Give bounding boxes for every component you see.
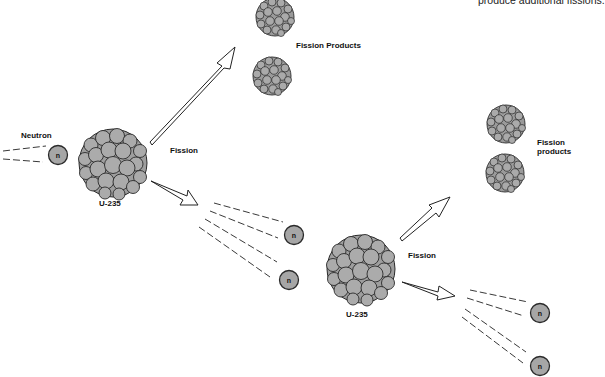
neutron-symbol: n xyxy=(292,232,296,239)
incoming-neutron-trail xyxy=(3,146,46,162)
neutron-symbol: n xyxy=(287,277,291,284)
emitted-neutron-trails-a xyxy=(199,203,283,277)
emitted-neutron-b2: n xyxy=(531,357,550,376)
fission-product-a1 xyxy=(256,0,295,37)
fission-label-b: Fission xyxy=(408,251,436,260)
neutron-symbol: n xyxy=(538,310,542,317)
arrow-to-fission-products-a xyxy=(150,47,235,145)
u235-nucleus-a xyxy=(79,129,148,201)
fission-products-label-a: Fission Products xyxy=(296,41,361,50)
neutron-label: Neutron xyxy=(21,131,52,140)
arrow-to-neutrons-b xyxy=(402,282,455,300)
fission-product-b1 xyxy=(487,105,526,144)
caption-text: produce additional fissions. xyxy=(478,0,605,6)
incoming-neutron: n xyxy=(49,146,68,165)
fission-product-a2 xyxy=(253,57,292,96)
emitted-neutron-b1: n xyxy=(531,304,550,323)
fission-product-b2 xyxy=(486,154,525,193)
neutron-symbol: n xyxy=(56,152,60,159)
fission-products-label-b-line1: Fission xyxy=(537,138,571,147)
arrow-to-neutrons-a xyxy=(151,181,198,205)
emitted-neutron-a1: n xyxy=(285,226,304,245)
fission-label-a: Fission xyxy=(170,146,198,155)
neutron-symbol: n xyxy=(538,363,542,370)
fission-products-label-b: Fission products xyxy=(537,138,571,156)
u235-nucleus-b xyxy=(327,235,396,307)
fission-products-label-b-line2: products xyxy=(537,147,571,156)
emitted-neutron-a2: n xyxy=(280,271,299,290)
arrow-to-fission-products-b xyxy=(400,197,450,241)
emitted-neutron-trails-b xyxy=(462,290,528,363)
u235-label-b: U-235 xyxy=(346,310,368,319)
u235-label-a: U-235 xyxy=(99,199,121,208)
